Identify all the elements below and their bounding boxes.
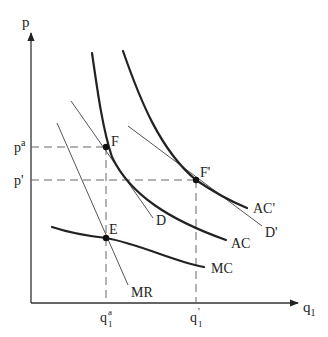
point-F-prime (193, 177, 199, 183)
average-cost-curve-AC-prime (123, 51, 247, 208)
label-MC: MC (211, 261, 233, 276)
tick-label-q1prime-sup: ' (198, 306, 200, 317)
label-D: D (156, 213, 166, 228)
point-F (103, 144, 109, 150)
tick-label-q1a-sub: 1 (108, 319, 113, 329)
label-AC: AC (231, 236, 250, 251)
label-D-prime: D' (265, 225, 278, 240)
tick-label-q1a-sup: a (108, 307, 112, 317)
tick-label-q1a: q (100, 310, 107, 325)
monopolistic-competition-diagram: p q1 F F' E D D' AC AC' MC MR pa p' q a (0, 0, 328, 337)
x-axis-label: q1 (303, 299, 316, 318)
label-F-prime: F' (200, 165, 210, 180)
label-F: F (111, 134, 119, 149)
label-E: E (109, 222, 118, 237)
tick-label-pa: pa (14, 137, 26, 155)
label-MR: MR (131, 285, 153, 300)
tick-label-q1prime: q (190, 310, 197, 325)
y-axis-label: p (22, 14, 30, 30)
marginal-cost-curve (52, 227, 204, 267)
tick-label-q1prime-sub: 1 (198, 319, 203, 329)
tick-label-pprime: p' (14, 173, 24, 188)
label-AC-prime: AC' (253, 201, 275, 216)
